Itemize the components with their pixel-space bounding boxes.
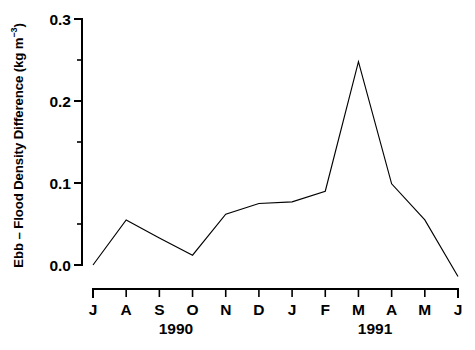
x-tick-label-group: JASONDJFMAMJ: [89, 301, 463, 318]
x-axis-spine: [93, 289, 458, 297]
y-axis: [75, 19, 82, 265]
x-tick-label: A: [121, 301, 132, 318]
x-tick-label: S: [154, 301, 164, 318]
data-series-group: [93, 62, 458, 277]
x-tick-label: A: [386, 301, 397, 318]
year-label-group: 19901991: [159, 320, 393, 337]
x-tick-label: J: [454, 301, 463, 318]
x-tick-label: N: [220, 301, 231, 318]
y-tick-label: 0.0: [49, 257, 71, 274]
x-tick-label: M: [418, 301, 431, 318]
y-tick-label: 0.2: [49, 93, 71, 110]
year-label: 1990: [159, 320, 193, 337]
y-tick-label-group: 0.00.10.20.3: [49, 11, 71, 274]
x-tick-label: O: [187, 301, 199, 318]
x-axis: [93, 289, 458, 297]
x-tick-label: M: [352, 301, 365, 318]
x-tick-label: J: [288, 301, 297, 318]
year-label: 1991: [358, 320, 393, 337]
x-tick-label: D: [253, 301, 264, 318]
chart-figure: Ebb – Flood Density Difference (kg m−3) …: [0, 0, 475, 350]
y-tick-label: 0.3: [49, 11, 71, 28]
y-tick-label: 0.1: [49, 175, 71, 192]
line-chart-plot: 0.00.10.20.3 JASONDJFMAMJ 19901991: [0, 0, 475, 350]
data-line: [93, 62, 458, 277]
x-tick-label: J: [89, 301, 98, 318]
x-tick-label: F: [321, 301, 330, 318]
